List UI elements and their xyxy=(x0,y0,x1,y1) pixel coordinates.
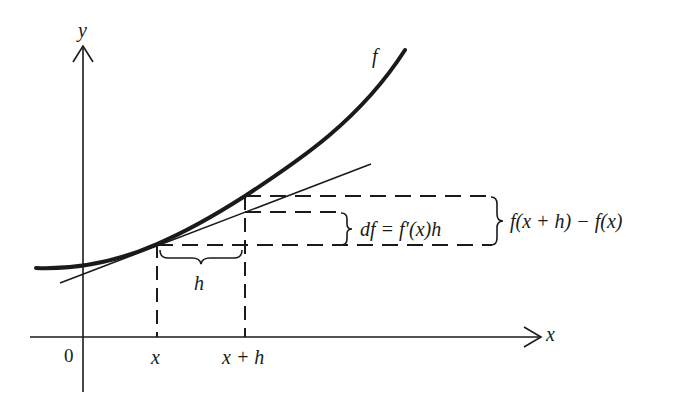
diagram-graphics xyxy=(0,0,673,413)
differential-label: df = f′(x)h xyxy=(360,219,441,239)
curve-f xyxy=(36,50,405,268)
brace-h xyxy=(160,250,242,264)
increment-label: f(x + h) − f(x) xyxy=(510,211,623,231)
origin-label: 0 xyxy=(64,346,74,365)
tangent-line xyxy=(60,164,371,283)
brace-df xyxy=(341,213,352,245)
y-axis-label: y xyxy=(78,20,87,40)
tick-label-x-plus-h: x + h xyxy=(222,347,264,367)
diagram-canvas: y x 0 f x x + h h df = f′(x)h f(x + h) −… xyxy=(0,0,673,413)
brace-increment xyxy=(491,197,503,245)
h-label: h xyxy=(194,273,204,293)
x-axis-label: x xyxy=(546,324,555,344)
curve-f-label: f xyxy=(372,46,378,66)
tick-label-x: x xyxy=(151,347,160,367)
